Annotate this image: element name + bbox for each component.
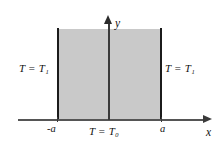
x-tick-positive-a <box>161 117 162 122</box>
x-tick-label-negative-a: -a <box>47 124 56 135</box>
right-boundary-wall <box>160 28 162 121</box>
left-boundary-condition-label: T = T₁ <box>19 63 49 74</box>
x-axis-label: x <box>206 127 211 139</box>
x-axis-arrow-icon <box>203 115 212 123</box>
left-boundary-wall <box>57 28 59 121</box>
y-axis-arrow-icon <box>104 15 112 24</box>
right-boundary-condition-label: T = T₁ <box>165 63 195 74</box>
bottom-boundary-condition-label: T = T₀ <box>89 126 119 137</box>
x-tick-negative-a <box>57 117 58 122</box>
x-axis-line <box>18 119 205 121</box>
y-axis-label: y <box>115 18 120 30</box>
x-tick-label-positive-a: a <box>160 124 165 135</box>
diagram-canvas: T = T₁ T = T₁ T = T₀ y x -a a <box>0 0 224 149</box>
y-axis-line <box>108 22 110 120</box>
